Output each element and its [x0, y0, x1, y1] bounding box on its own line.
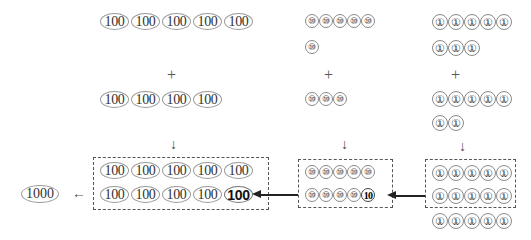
one-coin: ①: [448, 213, 464, 229]
ten-coin: ⑩: [361, 14, 375, 28]
thousand-coin: 1000: [21, 185, 59, 203]
plus-sign-ones: +: [451, 67, 460, 83]
tens-addend1-row2: ⑩: [305, 40, 319, 54]
ones-result-box-row1: ① ① ① ① ①: [432, 165, 512, 181]
ten-coin: ⑩: [319, 14, 333, 28]
one-coin: ①: [464, 213, 480, 229]
tens-result-row1: ⑩ ⑩ ⑩ ⑩ ⑩: [305, 165, 375, 179]
one-coin: ①: [496, 14, 512, 30]
ten-coin: ⑩: [305, 165, 319, 179]
ten-coin: ⑩: [319, 92, 333, 106]
ten-coin: ⑩: [347, 188, 361, 202]
down-arrow-icon: ↓: [341, 138, 348, 152]
down-arrow-icon: ↓: [459, 140, 466, 154]
down-arrow-icon: ↓: [170, 138, 177, 152]
hundred-coin: 100: [131, 13, 160, 30]
one-coin: ①: [448, 188, 464, 204]
one-coin: ①: [464, 188, 480, 204]
one-coin: ①: [448, 115, 464, 131]
one-coin: ①: [448, 14, 464, 30]
one-coin: ①: [464, 14, 480, 30]
one-coin: ①: [480, 14, 496, 30]
hundred-coin: 100: [162, 186, 191, 203]
plus-sign-hundreds: +: [167, 67, 176, 83]
one-coin: ①: [496, 213, 512, 229]
one-coin: ①: [432, 14, 448, 30]
ten-coin: ⑩: [319, 165, 333, 179]
one-coin: ①: [432, 40, 448, 56]
hundred-coin: 100: [193, 91, 222, 108]
hundreds-result-row1: 100 100 100 100 100: [100, 162, 255, 179]
hundred-coin: 100: [100, 91, 129, 108]
one-coin: ①: [480, 213, 496, 229]
ten-coin: ⑩: [305, 14, 319, 28]
ones-addend2-row1: ① ① ① ① ①: [432, 91, 512, 107]
one-coin: ①: [480, 91, 496, 107]
one-coin: ①: [448, 165, 464, 181]
one-coin: ①: [496, 91, 512, 107]
ten-coin: ⑩: [333, 14, 347, 28]
tens-result-row2: ⑩ ⑩ ⑩ ⑩ 10: [305, 188, 375, 202]
ten-coin: ⑩: [361, 165, 375, 179]
plus-sign-tens: +: [324, 67, 333, 83]
hundred-coin: 100: [224, 13, 253, 30]
one-coin: ①: [496, 165, 512, 181]
ten-coin: ⑩: [333, 92, 347, 106]
hundred-coin: 100: [193, 13, 222, 30]
one-coin: ①: [448, 40, 464, 56]
ones-addend2-row2: ① ①: [432, 115, 464, 131]
one-coin: ①: [480, 165, 496, 181]
one-coin: ①: [432, 188, 448, 204]
ones-result-box-row2: ① ① ① ① ①: [432, 188, 512, 204]
hundred-coin: 100: [193, 186, 222, 203]
one-coin: ①: [432, 165, 448, 181]
hundreds-result-row2: 100 100 100 100 100: [100, 186, 255, 203]
carry-line-to-tens: [393, 195, 425, 197]
one-coin: ①: [464, 40, 480, 56]
one-coin: ①: [496, 188, 512, 204]
ten-coin: ⑩: [305, 188, 319, 202]
ten-coin: ⑩: [333, 188, 347, 202]
hundred-coin: 100: [162, 91, 191, 108]
ten-coin: ⑩: [305, 92, 319, 106]
carried-ten-coin: 10: [361, 188, 375, 202]
ten-coin: ⑩: [319, 188, 333, 202]
one-coin: ①: [432, 91, 448, 107]
one-coin: ①: [432, 213, 448, 229]
hundred-coin: 100: [131, 162, 160, 179]
tens-addend1-row1: ⑩ ⑩ ⑩ ⑩ ⑩: [305, 14, 375, 28]
carry-line-to-hundreds: [258, 194, 298, 196]
hundred-coin: 100: [100, 13, 129, 30]
hundreds-addend1-row: 100 100 100 100 100: [100, 13, 255, 30]
hundreds-addend2-row: 100 100 100 100: [100, 91, 224, 108]
hundred-coin: 100: [162, 162, 191, 179]
hundred-coin: 100: [100, 162, 129, 179]
ten-coin: ⑩: [347, 14, 361, 28]
hundred-coin: 100: [193, 162, 222, 179]
ones-addend1-row2: ① ① ①: [432, 40, 480, 56]
hundred-coin: 100: [162, 13, 191, 30]
hundred-coin: 100: [131, 91, 160, 108]
hundred-coin: 100: [224, 162, 253, 179]
ones-addend1-row1: ① ① ① ① ①: [432, 14, 512, 30]
tens-addend2-row: ⑩ ⑩ ⑩: [305, 92, 347, 106]
ten-coin: ⑩: [305, 40, 319, 54]
left-arrow-icon: ←: [72, 187, 86, 201]
hundred-coin: 100: [100, 186, 129, 203]
ten-coin: ⑩: [347, 165, 361, 179]
ones-result-extra-row: ① ① ① ① ①: [432, 213, 512, 229]
hundred-coin: 100: [131, 186, 160, 203]
one-coin: ①: [464, 165, 480, 181]
one-coin: ①: [464, 91, 480, 107]
one-coin: ①: [432, 115, 448, 131]
ten-coin: ⑩: [333, 165, 347, 179]
one-coin: ①: [448, 91, 464, 107]
one-coin: ①: [480, 188, 496, 204]
carried-hundred-coin: 100: [224, 186, 253, 203]
